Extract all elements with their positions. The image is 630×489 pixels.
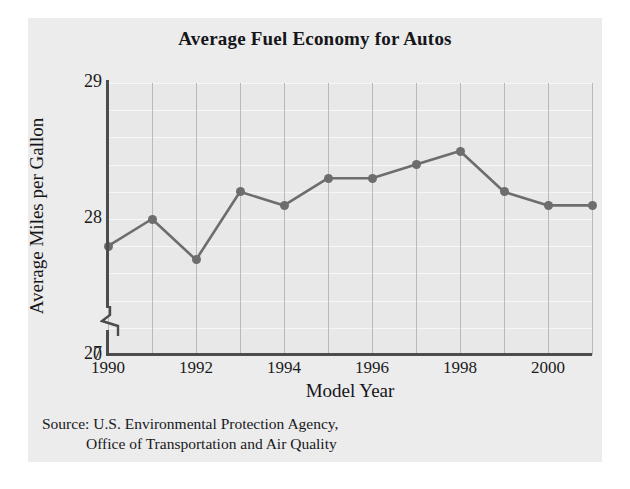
x-tick-label: 1994	[252, 358, 316, 378]
chart-figure: Average Fuel Economy for Autos 2928270 1…	[0, 0, 630, 489]
source-line-2: Office of Transportation and Air Quality	[42, 434, 562, 454]
source-line-1: Source: U.S. Environmental Protection Ag…	[42, 415, 338, 432]
data-point	[368, 174, 377, 183]
x-tick-label: 1998	[428, 358, 492, 378]
axis-break-icon	[100, 306, 128, 336]
data-point	[280, 201, 289, 210]
data-point	[412, 160, 421, 169]
plot-area	[108, 83, 592, 355]
data-point	[544, 201, 553, 210]
x-tick-label: 1996	[340, 358, 404, 378]
x-axis-line	[106, 353, 592, 356]
series-line-fuel-economy	[108, 83, 592, 355]
y-axis-line	[106, 80, 109, 308]
y-tick-label: 29	[68, 71, 102, 92]
x-tick-label: 1990	[76, 358, 140, 378]
y-tick-label: 28	[68, 207, 102, 228]
vertical-gridline	[592, 83, 593, 355]
data-point	[500, 187, 509, 196]
data-point	[236, 187, 245, 196]
data-point	[192, 255, 201, 264]
data-point	[456, 147, 465, 156]
data-point	[324, 174, 333, 183]
x-tick-label: 1992	[164, 358, 228, 378]
data-point	[588, 201, 597, 210]
data-point	[148, 215, 157, 224]
x-axis-title: Model Year	[108, 380, 592, 402]
source-note: Source: U.S. Environmental Protection Ag…	[42, 414, 562, 454]
x-tick-label: 2000	[516, 358, 580, 378]
y-axis-title: Average Miles per Gallon	[26, 106, 48, 326]
